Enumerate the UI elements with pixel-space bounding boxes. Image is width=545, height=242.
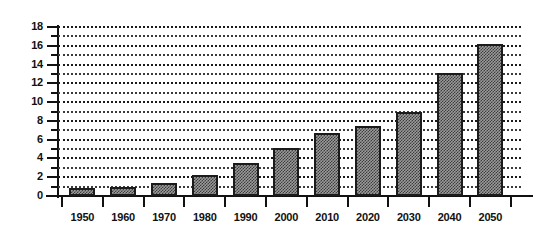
bar	[151, 183, 177, 196]
y-axis-tick-label: 0	[0, 190, 43, 201]
y-axis-minor-tick	[51, 129, 58, 131]
bar	[437, 73, 463, 196]
y-axis-tick-label: 16	[0, 40, 43, 51]
y-axis-tick-label: 4	[0, 152, 43, 163]
y-axis-tick	[47, 101, 58, 103]
y-axis-tick-label: 8	[0, 115, 43, 126]
y-axis-tick-label: 14	[0, 59, 43, 70]
y-axis-tick	[47, 82, 58, 84]
y-axis-tick	[47, 45, 58, 47]
y-axis-minor-tick	[51, 73, 58, 75]
y-axis-tick	[47, 176, 58, 178]
plot-area	[58, 27, 521, 196]
bar	[192, 175, 218, 196]
y-axis-minor-tick	[51, 35, 58, 37]
x-axis-tick-label: 2050	[462, 211, 518, 223]
bar	[110, 187, 136, 196]
bar	[355, 126, 381, 196]
y-axis-tick	[47, 139, 58, 141]
x-axis-tick	[102, 196, 104, 207]
x-axis-tick	[306, 196, 308, 207]
y-axis-tick-label: 2	[0, 171, 43, 182]
y-axis-tick-label: 12	[0, 77, 43, 88]
y-axis-minor-tick	[51, 92, 58, 94]
bar	[477, 44, 503, 196]
bar	[314, 133, 340, 196]
x-axis-tick	[387, 196, 389, 207]
x-axis-tick	[61, 196, 63, 207]
x-axis-tick	[428, 196, 430, 207]
y-axis-tick	[47, 157, 58, 159]
y-axis-tick-label: 6	[0, 134, 43, 145]
x-axis-tick	[183, 196, 185, 207]
y-axis-minor-tick	[51, 148, 58, 150]
y-axis-tick	[47, 195, 58, 197]
x-axis-tick	[510, 196, 512, 207]
y-axis-minor-tick	[51, 167, 58, 169]
y-axis-tick-label: 10	[0, 96, 43, 107]
bar-chart: 024681012141618 195019601970198019902000…	[0, 0, 545, 242]
y-axis-tick	[47, 64, 58, 66]
y-axis-minor-tick	[51, 54, 58, 56]
y-axis-tick	[47, 120, 58, 122]
y-axis-tick	[47, 26, 58, 28]
x-axis-tick	[224, 196, 226, 207]
bar	[69, 188, 95, 196]
y-axis-minor-tick	[51, 111, 58, 113]
y-axis-tick-label: 18	[0, 21, 43, 32]
x-axis-tick	[265, 196, 267, 207]
x-axis-tick	[347, 196, 349, 207]
bar	[233, 163, 259, 196]
bar	[273, 148, 299, 196]
x-axis-tick	[143, 196, 145, 207]
bar	[396, 112, 422, 196]
x-axis-tick	[469, 196, 471, 207]
y-axis-minor-tick	[51, 186, 58, 188]
